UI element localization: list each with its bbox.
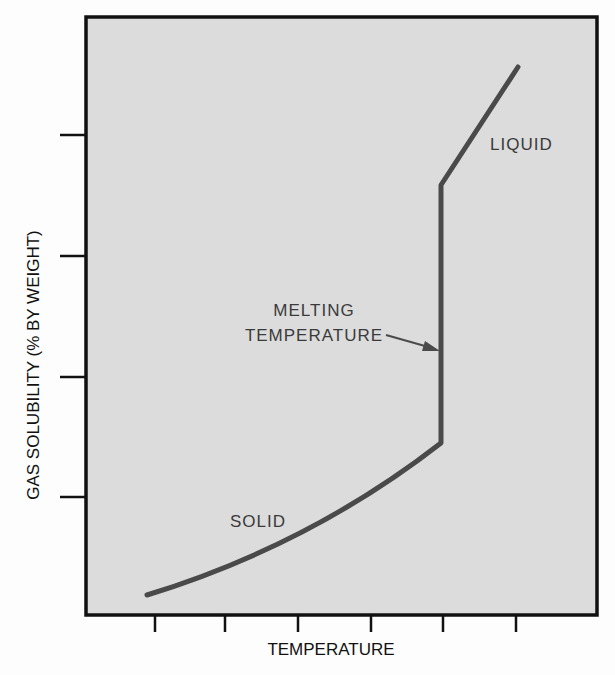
- y-axis-label: GAS SOLUBILITY (% BY WEIGHT): [24, 230, 43, 500]
- y-axis-ticks: [60, 135, 86, 497]
- liquid-label: LIQUID: [490, 135, 553, 154]
- solid-label: SOLID: [230, 512, 286, 531]
- melting-label-line2: TEMPERATURE: [245, 326, 383, 345]
- x-axis-label: TEMPERATURE: [267, 640, 394, 659]
- chart: LIQUID SOLID MELTING TEMPERATURE TEMPERA…: [0, 0, 615, 675]
- melting-label-line1: MELTING: [273, 301, 354, 320]
- x-axis-ticks: [155, 615, 516, 632]
